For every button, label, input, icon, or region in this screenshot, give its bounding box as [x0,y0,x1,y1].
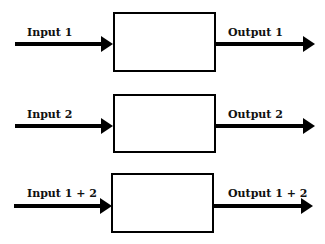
input-label-2: Input 2 [27,108,72,121]
output-label-1: Output 1 [228,26,283,39]
system-box-3 [111,173,214,233]
system-box-2 [113,94,216,153]
system-box-1 [113,12,216,72]
output-label-3: Output 1 + 2 [228,187,307,200]
input-label-1: Input 1 [27,26,72,39]
input-label-3: Input 1 + 2 [27,187,97,200]
output-label-2: Output 2 [228,108,283,121]
